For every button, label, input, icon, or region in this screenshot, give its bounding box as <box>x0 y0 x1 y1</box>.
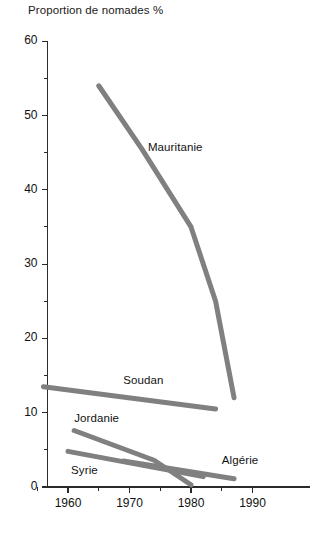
y-axis-label: 20 <box>12 330 38 344</box>
series-label-algrie: Algérie <box>222 454 259 466</box>
y-axis-label: 10 <box>12 405 38 419</box>
series-label-syrie: Syrie <box>71 464 98 476</box>
x-axis-label: 1970 <box>108 496 152 510</box>
y-axis-label: 60 <box>12 33 38 47</box>
y-axis-label: 30 <box>12 256 38 270</box>
y-axis-label: 50 <box>12 108 38 122</box>
series-label-mauritanie: Mauritanie <box>148 141 203 153</box>
series-line-mauritanie <box>99 86 234 398</box>
y-axis-label: 0 <box>12 479 38 493</box>
series-label-soudan: Soudan <box>123 374 163 386</box>
y-axis-label: 40 <box>12 182 38 196</box>
x-axis-label: 1980 <box>169 496 213 510</box>
chart-container: Proportion de nomades % 0102030405060 19… <box>0 0 314 548</box>
chart-axes <box>37 41 310 493</box>
chart-plot-area <box>0 0 314 548</box>
series-line-soudan <box>43 387 215 409</box>
x-axis-label: 1990 <box>231 496 275 510</box>
series-label-jordanie: Jordanie <box>74 412 119 424</box>
chart-series-group <box>43 86 234 485</box>
x-axis-label: 1960 <box>46 496 90 510</box>
